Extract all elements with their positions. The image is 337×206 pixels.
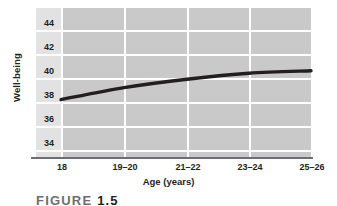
x-tick-label: 23–24 — [228, 162, 272, 172]
x-tick-label: 18 — [40, 162, 84, 172]
plot-area: 44 42 40 38 36 34 — [36, 8, 313, 157]
wellbeing-line-series — [36, 8, 313, 157]
x-tick-label: 19–20 — [103, 162, 147, 172]
y-axis-title: Well-being — [11, 23, 22, 133]
figure-container: Well-being 44 42 40 38 36 34 18 19–20 21… — [0, 0, 337, 206]
x-axis-line — [31, 157, 313, 159]
figure-caption-prefix: FIGURE — [36, 193, 92, 206]
x-tick-label: 25–26 — [290, 162, 334, 172]
x-axis-title: Age (years) — [0, 176, 337, 187]
figure-caption-number: 1.5 — [97, 193, 119, 206]
figure-caption: FIGURE 1.5 — [36, 193, 119, 206]
x-tick-label: 21–22 — [166, 162, 210, 172]
